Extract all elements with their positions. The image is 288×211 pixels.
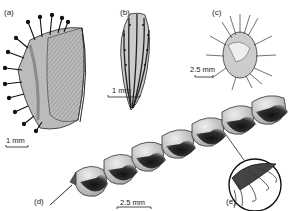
panel-label-c: (c)	[212, 9, 221, 17]
scale-label-b: 1 mm	[112, 87, 131, 95]
panel-label-a: (a)	[4, 9, 14, 17]
panel-label-b: (b)	[120, 9, 130, 17]
scale-label-d: 2.5 mm	[120, 199, 145, 207]
botanical-figure: (a) (b) (c) (d) (e) 1 mm 1 mm 2.5 mm 2.5…	[0, 0, 288, 211]
scale-label-c: 2.5 mm	[190, 66, 215, 74]
panel-a-drawing	[3, 13, 85, 132]
panel-label-e: (e)	[226, 198, 236, 206]
figure-drawing	[0, 0, 288, 211]
scale-label-a: 1 mm	[6, 137, 25, 145]
panel-c-drawing	[206, 14, 276, 90]
panel-label-d: (d)	[34, 198, 44, 206]
panel-b-drawing	[121, 13, 150, 110]
